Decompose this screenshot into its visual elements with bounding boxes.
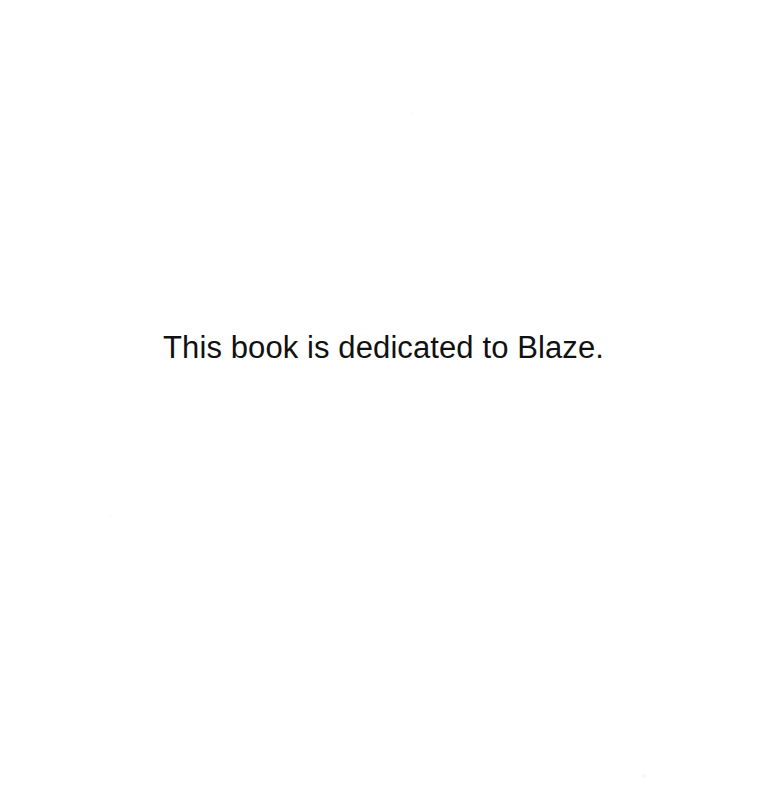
- scan-artifact-speck: [410, 111, 413, 114]
- dedication-page: This book is dedicated to Blaze.: [0, 0, 767, 788]
- scan-artifact-speck: [109, 514, 111, 518]
- scan-artifact-speck: [642, 774, 646, 778]
- dedication-text: This book is dedicated to Blaze.: [0, 328, 767, 368]
